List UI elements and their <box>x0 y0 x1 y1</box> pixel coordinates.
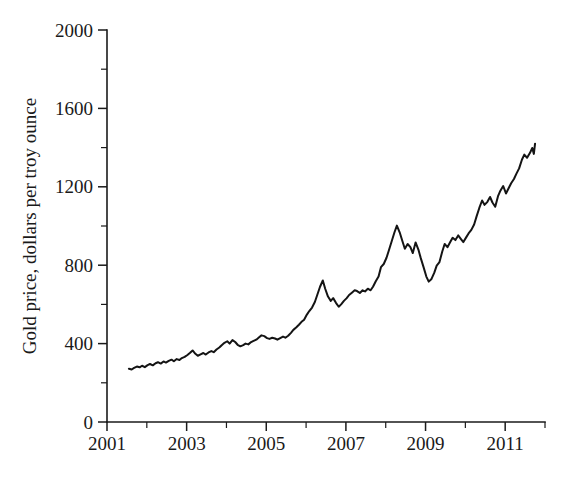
y-tick-label: 1200 <box>55 176 93 197</box>
chart-canvas: 0400800120016002000 20012003200520072009… <box>0 0 565 478</box>
y-axis-title: Gold price, dollars per troy ounce <box>19 98 40 354</box>
x-tick-label: 2003 <box>168 433 206 454</box>
y-axis-tick-labels: 0400800120016002000 <box>55 20 93 433</box>
gold-price-chart-figure: 0400800120016002000 20012003200520072009… <box>0 0 565 478</box>
x-tick-label: 2001 <box>88 433 126 454</box>
y-tick-label: 2000 <box>55 20 93 41</box>
y-tick-label: 0 <box>84 412 94 433</box>
y-axis-group: 0400800120016002000 <box>55 20 107 433</box>
x-tick-label: 2005 <box>247 433 285 454</box>
x-tick-label: 2007 <box>327 433 365 454</box>
y-tick-label: 400 <box>65 333 94 354</box>
gold-price-line <box>129 144 535 370</box>
y-tick-label: 1600 <box>55 98 93 119</box>
x-tick-label: 2009 <box>407 433 445 454</box>
x-axis-group: 200120032005200720092011 <box>88 422 545 454</box>
y-tick-label: 800 <box>65 255 94 276</box>
x-tick-label: 2011 <box>487 433 524 454</box>
x-axis-tick-labels: 200120032005200720092011 <box>88 433 524 454</box>
y-axis-minor-ticks <box>101 69 107 383</box>
